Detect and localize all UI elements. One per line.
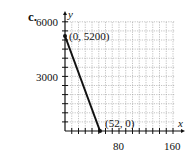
point-marker	[98, 129, 102, 133]
y-axis-label: y	[67, 8, 73, 20]
y-tick-6000: 6000	[36, 16, 59, 28]
y-tick-3000: 3000	[36, 71, 59, 83]
point-label-start: (0, 5200)	[69, 30, 110, 43]
x-tick-160: 160	[164, 140, 181, 152]
chart: y x 6000 3000 80 160 (0, 5200) (52, 0)	[0, 0, 194, 162]
point-marker	[63, 34, 67, 38]
x-tick-80: 80	[113, 140, 125, 152]
y-axis	[62, 11, 68, 131]
x-axis-label: x	[177, 117, 183, 129]
point-label-end: (52, 0)	[105, 117, 135, 130]
data-line	[65, 36, 100, 131]
